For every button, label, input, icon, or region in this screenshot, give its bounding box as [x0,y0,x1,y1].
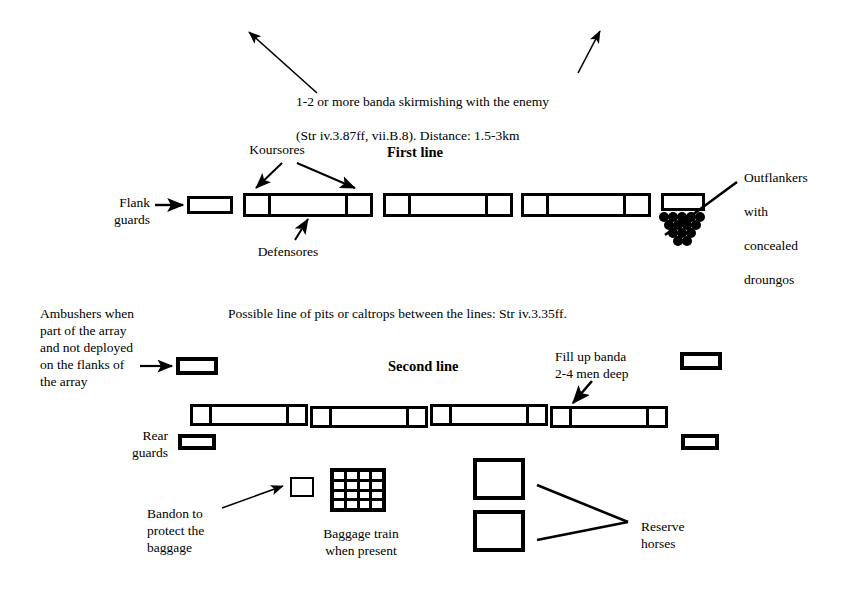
second-line-seg4-centre-cell [572,409,646,425]
baggage-cell [347,492,357,499]
outflankers-line-2: with [744,204,768,219]
bandon-label: Bandon to protect the baggage [147,505,267,556]
concealed-droungos-dots [659,212,709,244]
koursores-label: Koursores [222,141,332,158]
first-line-bar-3-right-cell [626,196,648,214]
baggage-cell [347,482,357,489]
skirmish-note-line1-pre: 1-2 or more [296,94,363,109]
fill-up-banda-label: Fill up banda 2-4 men deep [555,348,685,382]
outflankers-unit [661,193,705,211]
baggage-cell [334,482,344,489]
second-line-seg2-right-cell [409,409,425,425]
baggage-cell [372,482,382,489]
outflankers-droungos-italic: droungos [744,272,794,287]
second-line-seg1-right-cell [289,407,305,423]
baggage-cell [334,501,344,508]
baggage-cell [360,482,370,489]
second-line-segment-3 [430,404,548,426]
baggage-train-label: Baggage train when present [296,525,426,559]
skirmish-note: 1-2 or more banda skirmishing with the e… [296,76,616,144]
defensores-label: Defensores [233,243,343,260]
ambushers-label: Ambushers when part of the array and not… [40,305,170,390]
baggage-cell [372,492,382,499]
baggage-cell [334,492,344,499]
bandon-baggage-unit [290,477,314,497]
right-flank-ambush-unit [680,352,722,370]
flank-guard-unit [187,196,233,214]
rear-guards-label: Rear guards [96,427,168,461]
reserve-horses-label: Reserve horses [641,518,731,552]
pits-caltrops-note: Possible line of pits or caltrops betwee… [228,305,648,322]
first-line-bar-2 [383,193,513,217]
droungos-dot [682,236,692,246]
fill-up-banda-arrow [573,381,592,403]
first-line-bar-2-centre-cell [411,196,485,214]
koursores-arrow-left [256,163,282,188]
reserve-horses-leader-lower [537,522,628,540]
second-line-seg3-centre-cell [452,407,526,423]
baggage-cell [360,472,370,479]
koursores-arrow-right [297,163,355,188]
second-line-seg3-right-cell [529,407,545,423]
baggage-cell [334,472,344,479]
skirmish-note-line1-post: skirmishing with the enemy [395,94,549,109]
diagram-canvas: 1-2 or more banda skirmishing with the e… [0,0,855,592]
outflankers-label: Outflankers with concealed droungos [744,152,844,288]
baggage-cell [360,492,370,499]
first-line-title: First line [387,144,443,161]
reserve-horses-box-bottom [473,510,525,552]
flank-guards-label: Flank guards [78,194,150,228]
second-line-seg3-left-cell [433,407,449,423]
rear-guard-unit-right [681,434,719,450]
second-line-seg4-right-cell [649,409,665,425]
first-line-bar-3 [521,193,651,217]
rear-guard-unit-left [178,434,216,450]
second-line-seg4-left-cell [553,409,569,425]
koursores-left-cell [246,196,268,214]
baggage-train-grid [330,468,386,512]
first-line-bar-2-left-cell [386,196,408,214]
first-line-bar-3-left-cell [524,196,546,214]
first-line-bar-3-centre-cell [549,196,623,214]
second-line-segment-4 [550,406,668,428]
koursores-right-cell [348,196,370,214]
first-line-bar-1 [243,193,373,217]
second-line-segment-1 [190,404,308,426]
second-line-segment-2 [310,406,428,428]
baggage-cell [372,501,382,508]
baggage-cell [372,472,382,479]
first-line-bar-2-right-cell [488,196,510,214]
skirmisher-arrow-right [578,31,600,73]
outflankers-line-1: Outflankers [744,170,808,185]
defensores-centre-cell [271,196,345,214]
outflankers-line-3: concealed [744,238,798,253]
baggage-cell [360,501,370,508]
second-line-seg2-centre-cell [332,409,406,425]
second-line-seg1-left-cell [193,407,209,423]
baggage-cell [347,501,357,508]
skirmish-note-banda-italic: banda [363,94,395,109]
second-line-seg1-centre-cell [212,407,286,423]
second-line-seg2-left-cell [313,409,329,425]
defensores-arrow [295,219,308,240]
reserve-horses-leader-upper [537,485,628,522]
reserve-horses-box-top [473,458,525,500]
second-line-title: Second line [388,358,459,375]
baggage-cell [347,472,357,479]
ambushers-unit [176,357,218,375]
